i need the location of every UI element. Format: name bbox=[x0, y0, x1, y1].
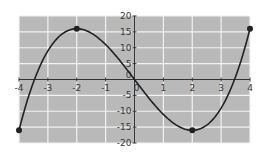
data-point bbox=[74, 26, 80, 32]
data-point bbox=[16, 127, 22, 133]
y-tick-label: -10 bbox=[117, 106, 132, 116]
x-tick-label: -1 bbox=[101, 83, 110, 93]
x-tick-label: 4 bbox=[247, 83, 253, 93]
x-tick-label: -3 bbox=[43, 83, 52, 93]
y-tick-label: 20 bbox=[120, 11, 132, 21]
x-tick-label: -2 bbox=[72, 83, 81, 93]
x-tick-label: 2 bbox=[189, 83, 195, 93]
y-tick-label: 15 bbox=[120, 27, 131, 37]
y-tick-label: 10 bbox=[120, 43, 132, 53]
y-tick-label: 5 bbox=[126, 59, 132, 69]
data-point bbox=[189, 127, 195, 133]
cubic-function-chart: -4-3-2-101234 -20-15-10-505101520 bbox=[0, 0, 261, 155]
x-tick-labels: -4-3-2-101234 bbox=[15, 83, 254, 93]
y-tick-label: -20 bbox=[117, 138, 132, 148]
x-tick-label: 1 bbox=[161, 83, 167, 93]
x-tick-label: 3 bbox=[218, 83, 224, 93]
y-tick-label: -15 bbox=[117, 122, 132, 132]
data-point bbox=[247, 26, 253, 32]
x-tick-label: -4 bbox=[15, 83, 24, 93]
y-tick-label: -5 bbox=[123, 90, 132, 100]
